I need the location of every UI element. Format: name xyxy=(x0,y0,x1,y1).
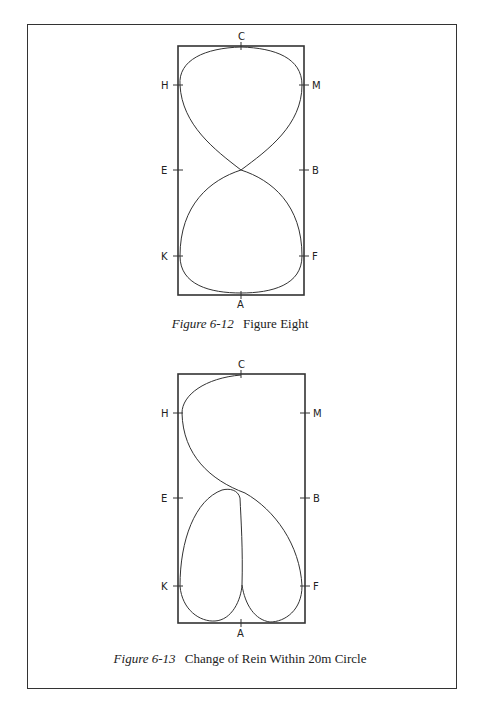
figure-eight-diagram xyxy=(173,42,309,299)
figure-title: Change of Rein Within 20m Circle xyxy=(185,651,367,666)
svg-text:F: F xyxy=(313,581,319,592)
svg-text:B: B xyxy=(312,165,319,176)
figure-number: Figure 6-13 xyxy=(114,651,176,666)
svg-text:F: F xyxy=(312,251,318,262)
svg-text:H: H xyxy=(161,80,169,91)
svg-text:K: K xyxy=(161,581,168,592)
change-of-rein-diagram xyxy=(173,370,310,627)
svg-text:M: M xyxy=(313,408,322,419)
svg-text:E: E xyxy=(161,165,167,176)
svg-text:H: H xyxy=(161,408,169,419)
figure-title: Figure Eight xyxy=(243,316,308,331)
svg-text:E: E xyxy=(161,493,167,504)
figure-number: Figure 6-12 xyxy=(172,316,234,331)
svg-text:C: C xyxy=(238,359,245,370)
figure-6-13-caption: Figure 6-13 Change of Rein Within 20m Ci… xyxy=(0,651,480,667)
figure-6-12-caption: Figure 6-12 Figure Eight xyxy=(0,316,480,332)
svg-text:M: M xyxy=(312,80,321,91)
svg-text:A: A xyxy=(237,628,244,639)
svg-text:K: K xyxy=(161,251,168,262)
svg-text:B: B xyxy=(313,493,320,504)
letter-a: A xyxy=(237,299,244,310)
arena-diagrams: C A HM EB KF C A HM EB KF xyxy=(0,0,480,712)
letter-c: C xyxy=(238,31,245,42)
